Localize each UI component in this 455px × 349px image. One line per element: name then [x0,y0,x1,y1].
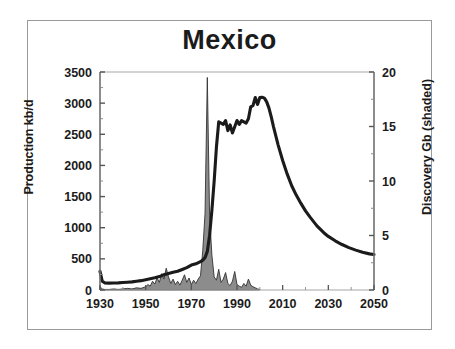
svg-text:1000: 1000 [64,221,92,235]
svg-text:20: 20 [382,66,396,80]
svg-text:15: 15 [382,120,396,134]
axes-lines [100,72,374,290]
svg-text:2050: 2050 [360,297,388,311]
svg-text:0: 0 [85,284,92,298]
svg-text:2030: 2030 [314,297,342,311]
svg-text:1950: 1950 [132,297,160,311]
svg-text:1990: 1990 [223,297,251,311]
production-line [100,97,374,283]
svg-text:1970: 1970 [177,297,205,311]
svg-text:0: 0 [382,284,389,298]
axis-tick-labels: 0500100015002000250030003500051015201930… [64,66,396,312]
axis-ticks [100,72,374,290]
figure-root: Mexico Production kb/d Discovery Gb (sha… [0,0,455,349]
svg-text:500: 500 [71,252,92,266]
svg-text:3000: 3000 [64,97,92,111]
svg-text:1500: 1500 [64,190,92,204]
svg-text:2500: 2500 [64,128,92,142]
chart-plot: 0500100015002000250030003500051015201930… [0,0,455,349]
svg-text:2010: 2010 [269,297,297,311]
discovery-shaded-area [100,77,260,290]
svg-text:3500: 3500 [64,66,92,80]
svg-text:5: 5 [382,229,389,243]
svg-text:1930: 1930 [86,297,114,311]
svg-text:10: 10 [382,175,396,189]
svg-text:2000: 2000 [64,159,92,173]
